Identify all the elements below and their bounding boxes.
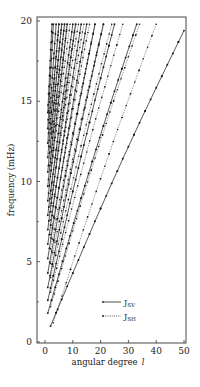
mode-marker xyxy=(99,137,101,139)
mode-marker xyxy=(69,202,71,204)
mode-marker xyxy=(53,150,55,152)
mode-marker xyxy=(76,79,78,81)
mode-marker xyxy=(95,149,97,151)
mode-marker xyxy=(64,91,66,93)
mode-marker xyxy=(74,89,76,91)
mode-marker xyxy=(51,23,53,25)
mode-marker xyxy=(61,189,63,191)
mode-marker xyxy=(87,90,89,92)
mode-marker xyxy=(52,131,54,133)
mode-marker xyxy=(91,110,93,112)
mode-marker xyxy=(70,172,72,174)
y-tick-label: 5 xyxy=(26,257,32,267)
mode-marker xyxy=(87,216,89,218)
mode-marker xyxy=(54,252,56,254)
mode-marker xyxy=(64,226,66,228)
mode-marker xyxy=(56,166,58,168)
mode-marker xyxy=(113,55,115,57)
mode-marker xyxy=(76,91,78,93)
mode-marker xyxy=(54,293,56,295)
mode-marker xyxy=(47,156,49,158)
mode-marker xyxy=(48,145,50,147)
mode-marker xyxy=(51,263,53,265)
mode-marker xyxy=(53,82,55,84)
mode-marker xyxy=(78,55,80,57)
mode-marker xyxy=(59,104,61,106)
mode-marker xyxy=(61,112,63,114)
mode-marker xyxy=(78,156,80,158)
mode-marker xyxy=(87,32,89,34)
mode-marker xyxy=(64,135,66,137)
mode-marker xyxy=(57,243,59,245)
mode-marker xyxy=(106,113,108,115)
mode-marker xyxy=(66,97,68,99)
mode-marker xyxy=(51,31,53,33)
mode-marker xyxy=(94,23,96,25)
mode-marker xyxy=(71,116,73,118)
mode-marker xyxy=(54,43,56,45)
mode-marker xyxy=(121,68,123,70)
mode-marker xyxy=(86,23,88,25)
mode-marker xyxy=(76,31,78,33)
mode-marker xyxy=(56,108,58,110)
mode-marker xyxy=(58,91,60,93)
mode-marker xyxy=(69,102,71,104)
mode-marker xyxy=(63,200,65,202)
mode-marker xyxy=(50,248,52,250)
mode-marker xyxy=(133,134,135,136)
mode-marker xyxy=(65,255,67,257)
mode-marker xyxy=(61,299,63,301)
mode-marker xyxy=(72,60,74,62)
mode-marker xyxy=(96,52,98,54)
mode-marker xyxy=(98,107,100,109)
mode-marker xyxy=(62,143,64,145)
mode-marker xyxy=(77,185,79,187)
mode-marker xyxy=(52,114,54,116)
x-tick-label: 0 xyxy=(42,346,48,356)
mode-marker xyxy=(50,118,52,120)
mode-marker xyxy=(80,197,82,199)
mode-marker xyxy=(62,93,64,95)
mode-marker xyxy=(155,87,157,89)
mode-marker xyxy=(49,198,51,200)
mode-marker xyxy=(60,232,62,234)
mode-marker xyxy=(51,136,53,138)
mode-marker xyxy=(65,84,67,86)
mode-marker xyxy=(53,322,55,324)
mode-marker xyxy=(75,38,77,40)
mode-marker xyxy=(53,280,55,282)
mode-marker xyxy=(89,121,91,123)
mode-marker xyxy=(61,85,63,87)
mode-marker xyxy=(63,161,65,163)
mode-marker xyxy=(63,107,65,109)
mode-marker xyxy=(47,258,49,260)
mode-marker xyxy=(50,325,52,327)
mode-marker xyxy=(102,134,104,136)
mode-marker xyxy=(63,206,65,208)
mode-marker xyxy=(72,272,74,274)
mode-marker xyxy=(108,153,110,155)
mode-marker xyxy=(50,147,52,149)
mode-marker xyxy=(82,57,84,59)
mode-marker xyxy=(60,92,62,94)
mode-marker xyxy=(61,295,63,297)
y-tick-label: 0 xyxy=(26,337,32,347)
mode-marker xyxy=(70,74,72,76)
mode-marker xyxy=(92,70,94,72)
mode-marker xyxy=(53,181,55,183)
mode-marker xyxy=(75,23,77,25)
mode-marker xyxy=(58,133,60,135)
mode-marker xyxy=(101,63,103,65)
mode-marker xyxy=(71,94,73,96)
mode-marker xyxy=(75,166,77,168)
mode-marker xyxy=(72,161,74,163)
mode-marker xyxy=(106,43,108,45)
y-axis-label: frequency (mHz) xyxy=(6,144,16,217)
mode-marker xyxy=(78,104,80,106)
mode-marker xyxy=(83,246,85,248)
mode-marker xyxy=(107,75,109,77)
x-tick-label: 40 xyxy=(150,346,162,356)
mode-marker xyxy=(64,85,66,87)
mode-marker xyxy=(98,146,100,148)
mode-marker xyxy=(88,114,90,116)
